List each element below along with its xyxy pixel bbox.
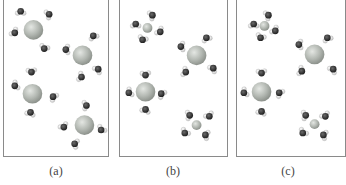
water-molecule [62, 44, 70, 55]
water-molecule [202, 130, 210, 141]
water-molecule [203, 111, 213, 120]
water-molecule [130, 21, 141, 29]
water-molecule [276, 89, 285, 99]
water-molecule [71, 139, 79, 150]
panel-a [3, 0, 109, 157]
ion-sphere [260, 21, 270, 31]
water-molecule [263, 11, 272, 21]
water-molecule [181, 66, 189, 77]
water-molecule [76, 71, 84, 82]
water-molecule [89, 32, 99, 41]
molecules-panel-b [120, 0, 227, 156]
water-molecule [25, 109, 36, 117]
ion-sphere [310, 119, 320, 129]
panel-c [236, 0, 346, 157]
water-molecule [11, 80, 20, 90]
water-molecule [256, 108, 267, 116]
water-molecule [185, 110, 193, 121]
ion-sphere [305, 45, 325, 65]
panel-label-b: (b) [153, 164, 193, 179]
water-molecule [269, 25, 278, 34]
water-molecule [327, 66, 336, 75]
water-molecule [323, 34, 333, 43]
ion-sphere [24, 20, 44, 40]
water-molecule [202, 34, 212, 43]
water-molecule [44, 10, 53, 20]
ion-sphere [136, 82, 156, 102]
panel-b [119, 0, 228, 157]
water-molecule [97, 124, 107, 133]
water-molecule [207, 65, 216, 74]
water-molecule [248, 21, 259, 29]
water-molecule [147, 11, 156, 21]
water-molecule [138, 34, 149, 43]
water-molecule [178, 41, 186, 52]
water-molecule [256, 33, 267, 42]
ion-sphere [143, 23, 153, 33]
ion-sphere [192, 120, 202, 130]
water-molecule [241, 87, 250, 97]
water-molecule [299, 127, 309, 136]
ion-sphere [187, 46, 207, 66]
ion-sphere [252, 82, 272, 102]
water-molecule [15, 8, 26, 16]
ion-sphere [75, 115, 95, 135]
water-molecule [296, 39, 304, 50]
water-molecule [140, 106, 151, 114]
water-molecule [40, 43, 51, 52]
water-molecule [50, 93, 59, 103]
water-molecule [301, 110, 309, 121]
water-molecule [9, 27, 18, 36]
water-molecule [26, 68, 37, 76]
ion-sphere [23, 84, 43, 104]
water-molecule [320, 130, 328, 141]
panel-label-a: (a) [36, 164, 76, 179]
water-molecule [297, 65, 305, 76]
water-molecule [319, 111, 329, 120]
water-molecule [58, 122, 68, 131]
water-molecule [181, 127, 191, 136]
water-molecule [125, 87, 134, 97]
water-molecule [140, 71, 151, 79]
water-molecule [92, 66, 101, 75]
molecules-panel-c [237, 0, 345, 156]
water-molecule [256, 69, 267, 77]
water-molecule [158, 90, 167, 100]
water-molecule [82, 100, 90, 111]
molecules-panel-a [4, 0, 108, 156]
water-molecule [154, 26, 163, 35]
ion-sphere [73, 46, 93, 66]
panel-label-c: (c) [268, 164, 308, 179]
